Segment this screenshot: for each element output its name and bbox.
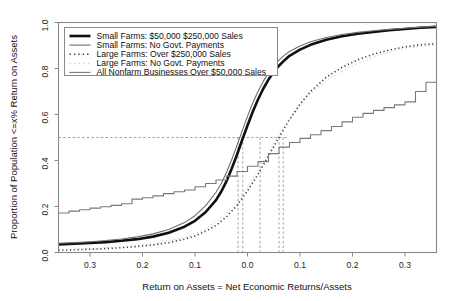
x-tick-label: 0.3 <box>399 260 411 270</box>
x-tick-label: 0.2 <box>347 260 359 270</box>
chart-legend: Small Farms: $50,000 $250,000 SalesSmall… <box>65 28 278 78</box>
y-tick-label: 0.0 <box>40 249 50 261</box>
chart-figure: 0.00.20.40.60.81.0 0.30.20.10.00.10.20.3… <box>0 0 452 301</box>
cdf-chart: 0.00.20.40.60.81.0 0.30.20.10.00.10.20.3… <box>0 0 452 301</box>
y-tick-label: 0.6 <box>40 111 50 123</box>
y-tick-label: 1.0 <box>40 19 50 31</box>
x-tick-label: 0.1 <box>294 260 306 270</box>
x-axis-title: Return on Assets = Net Economic Returns/… <box>142 281 352 292</box>
legend-label: All Nonfarm Businesses Over $50,000 Sale… <box>97 67 267 77</box>
x-tick-label: 0.1 <box>189 260 201 270</box>
y-tick-label: 0.4 <box>40 157 50 169</box>
y-tick-label: 0.2 <box>40 203 50 215</box>
y-tick-label: 0.8 <box>40 65 50 77</box>
x-tick-label: 0.0 <box>242 260 254 270</box>
y-axis-title: Proportion of Population <=x% Return on … <box>8 35 19 239</box>
x-tick-label: 0.2 <box>137 260 149 270</box>
x-tick-label: 0.3 <box>84 260 96 270</box>
